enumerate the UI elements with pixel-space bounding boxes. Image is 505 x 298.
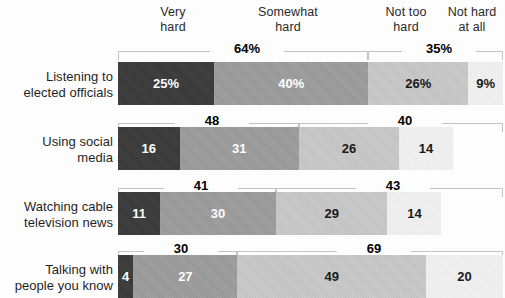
category-label-line1: Listening to (46, 69, 113, 84)
bar-segment-value: 4 (122, 269, 129, 284)
bar-segment-somewhat-hard: 40% (214, 62, 368, 105)
column-header-very-hard-line2: hard (140, 20, 206, 35)
bar-segment-very-hard: 11 (118, 192, 160, 235)
bar-segment-value: 14 (419, 141, 433, 156)
bar-segment-value: 26 (342, 141, 356, 156)
bar-segment-not-hard-at-all: 14 (387, 192, 441, 235)
bar-segment-not-too-hard: 49 (237, 255, 426, 298)
net-value-not-hard-row-4: 69 (337, 242, 411, 256)
bar-segment-somewhat-hard: 27 (133, 255, 237, 298)
net-value-not-hard-row-2: 40 (368, 114, 442, 128)
bar-segment-not-too-hard: 26 (299, 127, 399, 170)
bar-segment-not-hard-at-all: 14 (399, 127, 453, 170)
bar-segment-somewhat-hard: 31 (180, 127, 299, 170)
bar-segment-very-hard: 4 (118, 255, 133, 298)
net-value-not-hard-row-1: 35% (402, 42, 476, 56)
bar-segment-value: 49 (324, 269, 338, 284)
bar-segment-value: 9% (476, 76, 495, 91)
bar-row-using-social-media: 16 31 26 14 (118, 127, 503, 170)
category-label-line1: Using social (42, 134, 113, 149)
net-value-not-hard-row-3: 43 (356, 179, 430, 193)
net-value-hard-row-4: 30 (144, 242, 218, 256)
column-header-somewhat-hard: Somewhat hard (240, 5, 336, 34)
bar-segment-not-hard-at-all: 20 (426, 255, 503, 298)
category-label-line1: Watching cable (24, 199, 113, 214)
category-label-using-social-media: Using social media (0, 134, 113, 165)
net-brackets-row-1: 64% 35% (118, 42, 503, 62)
bar-segment-somewhat-hard: 30 (160, 192, 276, 235)
category-label-line1: Talking with (45, 262, 113, 277)
bar-segment-value: 27 (178, 269, 192, 284)
column-header-not-too-hard-line2: hard (372, 20, 440, 35)
column-header-somewhat-hard-line2: hard (240, 20, 336, 35)
bar-row-watching-cable-television-news: 11 30 29 14 (118, 192, 503, 235)
bar-segment-not-too-hard: 29 (276, 192, 388, 235)
category-label-talking-with-people-you-know: Talking with people you know (0, 262, 113, 293)
category-label-line2: media (77, 150, 113, 165)
column-header-not-hard-at-all: Not hard at all (440, 5, 504, 34)
bar-segment-value: 14 (407, 206, 421, 221)
column-header-somewhat-hard-line1: Somewhat (258, 5, 318, 19)
bar-segment-value: 25% (153, 76, 179, 91)
column-header-not-too-hard-line1: Not too (385, 5, 426, 19)
bar-segment-value: 26% (405, 76, 431, 91)
net-value-hard-row-3: 41 (164, 179, 238, 193)
bar-segment-very-hard: 16 (118, 127, 180, 170)
net-value-hard-row-2: 48 (175, 114, 249, 128)
bar-segment-value: 30 (211, 206, 225, 221)
bar-segment-value: 16 (142, 141, 156, 156)
column-header-not-hard-at-all-line1: Not hard (448, 5, 497, 19)
bar-segment-very-hard: 25% (118, 62, 214, 105)
column-header-very-hard: Very hard (140, 5, 206, 34)
bar-segment-value: 40% (278, 76, 304, 91)
category-label-line2: television news (24, 215, 113, 230)
category-label-line2: people you know (15, 278, 113, 293)
category-label-listening-to-elected-officials: Listening to elected officials (0, 69, 113, 100)
category-label-watching-cable-television-news: Watching cable television news (0, 199, 113, 230)
bar-row-listening-to-elected-officials: 25% 40% 26% 9% (118, 62, 503, 105)
bar-segment-value: 31 (232, 141, 246, 156)
bar-segment-value: 11 (132, 206, 146, 221)
column-header-not-too-hard: Not too hard (372, 5, 440, 34)
category-label-line2: elected officials (24, 85, 114, 100)
bar-segment-value: 20 (457, 269, 471, 284)
bar-row-talking-with-people-you-know: 4 27 49 20 (118, 255, 503, 298)
column-header-not-hard-at-all-line2: at all (440, 20, 504, 35)
net-value-hard-row-1: 64% (210, 42, 284, 56)
bar-segment-not-hard-at-all: 9% (468, 62, 503, 105)
bar-segment-not-too-hard: 26% (368, 62, 468, 105)
column-header-very-hard-line1: Very (160, 5, 185, 19)
bar-segment-value: 29 (324, 206, 338, 221)
